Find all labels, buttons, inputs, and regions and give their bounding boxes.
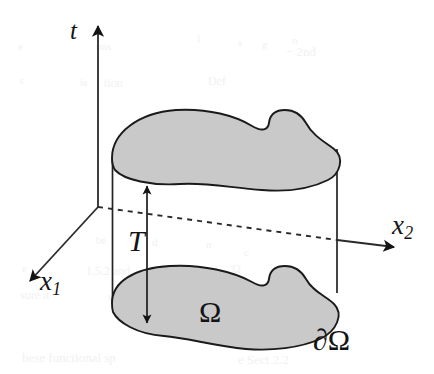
axis-label-x2-subscript: 2 <box>404 223 413 243</box>
axis-label-x1: x1 <box>40 268 61 299</box>
axis-label-x2-base: x <box>392 210 404 240</box>
boundary-label-d-omega: ∂Ω <box>313 325 350 355</box>
omega-top-cap <box>112 110 340 191</box>
time-extent-label-T: T <box>128 226 145 256</box>
axis-label-t: t <box>70 18 77 43</box>
axis-label-x2: x2 <box>392 212 413 243</box>
region-label-omega: Ω <box>199 297 221 327</box>
omega-bottom-cap <box>112 266 339 350</box>
axis-label-x1-subscript: 1 <box>52 279 61 299</box>
axis-label-x1-base: x <box>40 266 52 296</box>
space-time-cylinder-figure: eons1sgn− 2ndcistionDefcbedne1.5.2 andΩs… <box>0 0 434 374</box>
axis-x2-visible-segment <box>337 240 394 247</box>
